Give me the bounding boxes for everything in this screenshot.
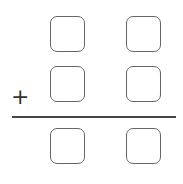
- addend1-tens-box[interactable]: [50, 16, 85, 52]
- sum-line: [12, 116, 176, 118]
- addend2-ones-box[interactable]: [126, 66, 161, 102]
- sum-tens-box[interactable]: [50, 128, 85, 164]
- addend1-ones-box[interactable]: [126, 16, 161, 52]
- addend2-tens-box[interactable]: [50, 66, 85, 102]
- sum-ones-box[interactable]: [126, 128, 161, 164]
- plus-operator: +: [11, 86, 29, 108]
